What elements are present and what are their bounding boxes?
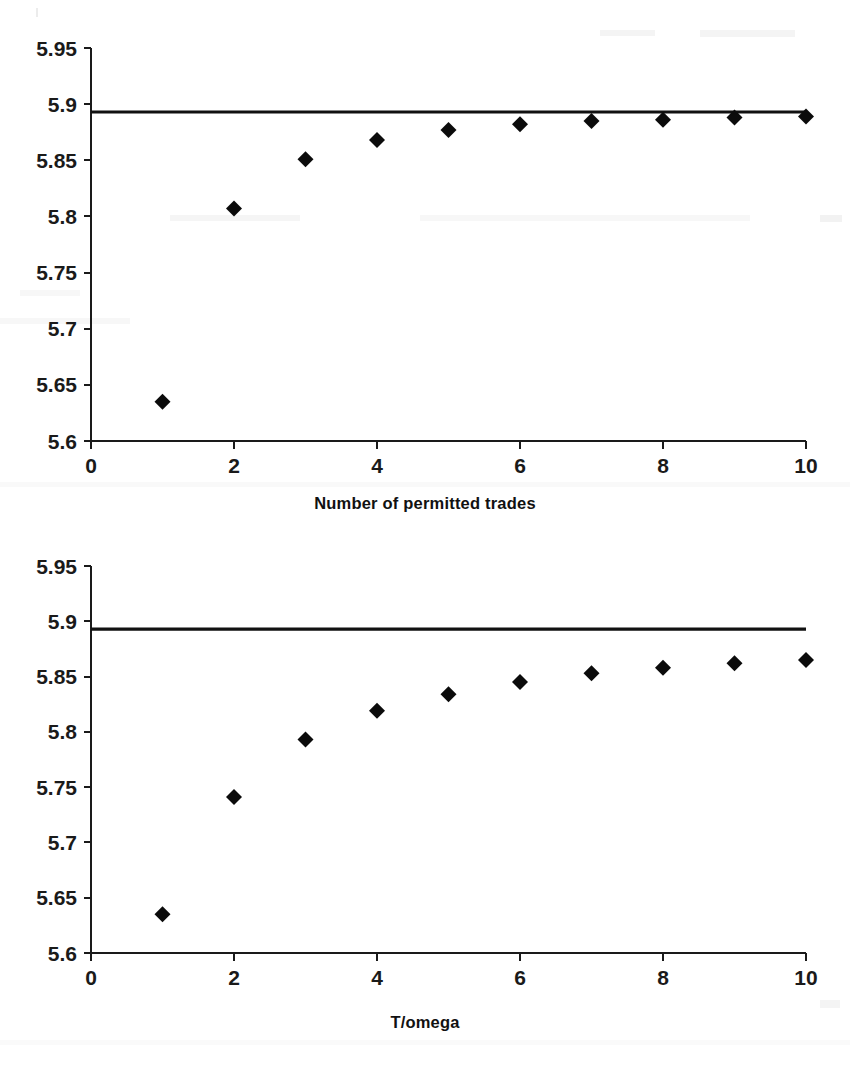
y-tick-label: 5.85 (36, 149, 77, 172)
y-tick-label: 5.65 (36, 886, 77, 909)
x-tick-label: 10 (794, 966, 817, 989)
y-tick-label: 5.85 (36, 665, 77, 688)
data-point-marker (655, 112, 671, 128)
y-tick-label: 5.7 (48, 831, 77, 854)
x-tick-label: 8 (657, 966, 669, 989)
y-tick-label: 5.6 (48, 942, 77, 965)
figure-page: 5.65.655.75.755.85.855.95.950246810 Numb… (0, 0, 850, 1073)
y-tick-label: 5.9 (48, 610, 77, 633)
data-point-marker (584, 665, 600, 681)
data-point-marker (512, 674, 528, 690)
x-tick-label: 4 (371, 454, 383, 477)
xaxis-title-bottom: T/omega (0, 1013, 850, 1032)
data-point-marker (155, 394, 171, 410)
y-tick-label: 5.7 (48, 317, 77, 340)
x-tick-label: 10 (794, 454, 817, 477)
x-tick-label: 8 (657, 454, 669, 477)
data-point-marker (798, 652, 814, 668)
data-point-marker (226, 201, 242, 217)
chart-panel-bottom: 5.65.655.75.755.85.855.95.950246810 T/om… (0, 518, 850, 1073)
chart-panel-top: 5.65.655.75.755.85.855.95.950246810 Numb… (0, 0, 850, 540)
data-point-marker (655, 660, 671, 676)
scatter-plot-t-over-omega: 5.65.655.75.755.85.855.95.950246810 (0, 518, 850, 1073)
x-tick-label: 4 (371, 966, 383, 989)
data-point-marker (298, 151, 314, 167)
data-point-marker (727, 655, 743, 671)
x-tick-label: 2 (228, 966, 240, 989)
data-point-marker (369, 703, 385, 719)
data-point-marker (441, 686, 457, 702)
y-tick-label: 5.9 (48, 93, 77, 116)
x-tick-label: 6 (514, 966, 526, 989)
y-tick-label: 5.95 (36, 37, 77, 60)
data-point-marker (155, 906, 171, 922)
y-tick-label: 5.6 (48, 430, 77, 453)
x-tick-label: 0 (85, 966, 97, 989)
x-tick-label: 2 (228, 454, 240, 477)
data-point-marker (298, 732, 314, 748)
y-tick-label: 5.75 (36, 261, 77, 284)
data-point-marker (441, 122, 457, 138)
data-point-marker (512, 116, 528, 132)
scatter-plot-number-of-permitted-trades: 5.65.655.75.755.85.855.95.950246810 (0, 0, 850, 540)
x-tick-label: 6 (514, 454, 526, 477)
data-point-marker (226, 789, 242, 805)
y-tick-label: 5.75 (36, 776, 77, 799)
x-tick-label: 0 (85, 454, 97, 477)
y-tick-label: 5.8 (48, 205, 78, 228)
y-tick-label: 5.65 (36, 373, 77, 396)
xaxis-title-top: Number of permitted trades (0, 494, 850, 513)
data-point-marker (584, 113, 600, 129)
data-point-marker (369, 132, 385, 148)
y-tick-label: 5.8 (48, 720, 78, 743)
y-tick-label: 5.95 (36, 555, 77, 578)
